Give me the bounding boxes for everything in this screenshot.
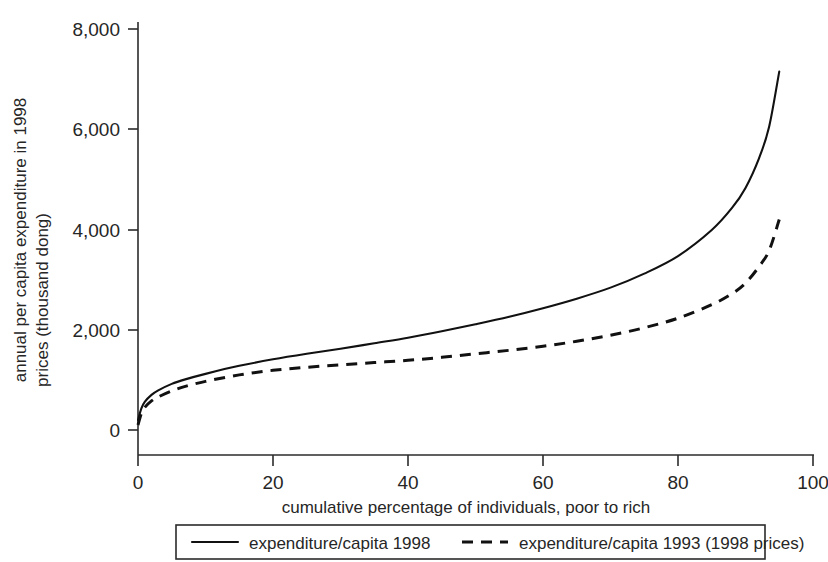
y-tick-label-4000: 4,000 <box>72 220 120 241</box>
y-tick-label-8000: 8,000 <box>72 19 120 40</box>
x-tick-marks <box>138 455 813 466</box>
y-axis-title-line1: annual per capita expenditure in 1998 <box>11 98 30 383</box>
y-tick-label-6000: 6,000 <box>72 119 120 140</box>
x-tick-label-60: 60 <box>532 472 553 493</box>
y-tick-label-2000: 2,000 <box>72 320 120 341</box>
x-axis-title: cumulative percentage of individuals, po… <box>282 498 651 517</box>
x-tick-label-100: 100 <box>797 472 828 493</box>
x-tick-label-20: 20 <box>262 472 283 493</box>
chart-page: annual per capita expenditure in 1998 pr… <box>0 0 828 562</box>
y-tick-marks <box>128 29 138 430</box>
series-line-expenditure-1998 <box>138 72 779 420</box>
x-tick-label-40: 40 <box>397 472 418 493</box>
y-axis-title-line2: prices (thousand dong) <box>33 213 52 387</box>
legend-label-expenditure-1998: expenditure/capita 1998 <box>249 534 430 553</box>
series-line-expenditure-1993 <box>138 219 779 425</box>
legend-label-expenditure-1993: expenditure/capita 1993 (1998 prices) <box>519 534 804 553</box>
x-tick-label-0: 0 <box>133 472 144 493</box>
y-tick-label-0: 0 <box>109 420 120 441</box>
x-tick-label-80: 80 <box>667 472 688 493</box>
expenditure-line-chart: annual per capita expenditure in 1998 pr… <box>0 0 828 562</box>
